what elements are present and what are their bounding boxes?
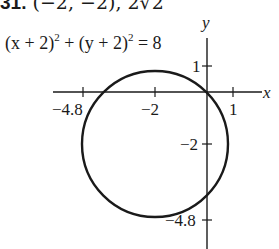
x-axis-label: x bbox=[262, 83, 271, 102]
y-tick-label: −4.8 bbox=[165, 211, 196, 230]
y-tick-label: 1 bbox=[192, 57, 201, 76]
x-tick-label: −2 bbox=[141, 100, 159, 119]
y-tick-label: −2 bbox=[180, 135, 198, 154]
x-tick-label: 1 bbox=[229, 100, 238, 119]
y-axis-label: y bbox=[200, 13, 210, 32]
graph: x y −4.8 −2 1 1 −2 −4.8 bbox=[0, 0, 279, 249]
x-tick-label: −4.8 bbox=[52, 100, 83, 119]
